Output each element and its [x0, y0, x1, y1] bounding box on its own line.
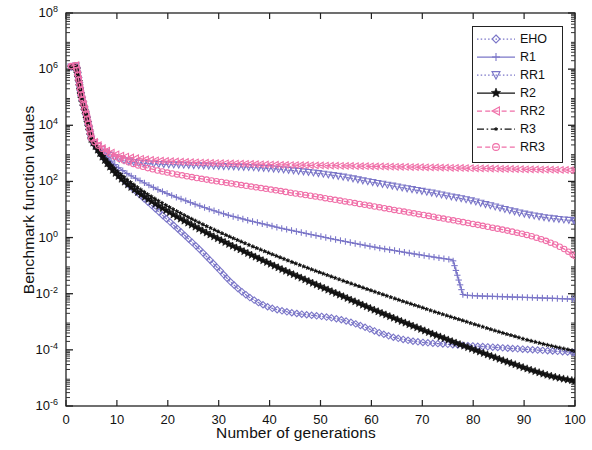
- legend-label: R3: [516, 120, 536, 138]
- y-tick-label: 10-6: [6, 397, 58, 413]
- y-tick-label: 10-4: [6, 341, 58, 357]
- legend-item-r1[interactable]: R1: [473, 48, 562, 66]
- y-tick-label: 102: [6, 172, 58, 188]
- x-tick-label: 70: [406, 412, 438, 427]
- x-tick-label: 80: [457, 412, 489, 427]
- legend-label: EHO: [516, 30, 547, 48]
- legend-key-eho: [476, 30, 516, 48]
- x-tick-label: 60: [355, 412, 387, 427]
- figure: Number of generations Benchmark function…: [0, 0, 592, 450]
- y-tick-label: 10-2: [6, 285, 58, 301]
- x-tick-label: 20: [152, 412, 184, 427]
- x-tick-label: 40: [254, 412, 286, 427]
- x-axis-title: Number of generations: [0, 424, 592, 442]
- x-tick-label: 100: [559, 412, 591, 427]
- legend-item-rr1[interactable]: RR1: [473, 66, 562, 84]
- chart-legend: EHOR1RR1R2RR2R3RR3: [472, 26, 563, 163]
- y-tick-label: 108: [6, 4, 58, 20]
- y-tick-label: 100: [6, 229, 58, 245]
- legend-item-rr3[interactable]: RR3: [473, 138, 562, 156]
- legend-key-r3: [476, 120, 516, 138]
- legend-label: RR2: [516, 102, 545, 120]
- legend-label: RR1: [516, 66, 545, 84]
- legend-key-r2: [476, 84, 516, 102]
- legend-key-rr1: [476, 66, 516, 84]
- legend-item-r3[interactable]: R3: [473, 120, 562, 138]
- x-tick-label: 0: [50, 412, 82, 427]
- legend-key-rr3: [476, 138, 516, 156]
- y-tick-label: 104: [6, 116, 58, 132]
- x-tick-label: 90: [508, 412, 540, 427]
- legend-item-rr2[interactable]: RR2: [473, 102, 562, 120]
- legend-label: R1: [516, 48, 536, 66]
- y-tick-label: 106: [6, 60, 58, 76]
- legend-item-eho[interactable]: EHO: [473, 30, 562, 48]
- legend-key-rr2: [476, 102, 516, 120]
- legend-item-r2[interactable]: R2: [473, 84, 562, 102]
- x-tick-label: 50: [305, 412, 337, 427]
- legend-key-r1: [476, 48, 516, 66]
- x-tick-label: 30: [203, 412, 235, 427]
- legend-label: RR3: [516, 138, 545, 156]
- legend-label: R2: [516, 84, 536, 102]
- x-tick-label: 10: [101, 412, 133, 427]
